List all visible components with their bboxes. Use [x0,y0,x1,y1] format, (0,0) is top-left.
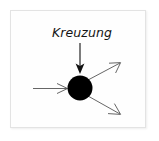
outgoing-arrow-upper-right [88,63,121,80]
kreuzung-node [68,76,93,101]
incoming-arrow-left [33,84,68,94]
label-pointer-arrow [76,43,85,74]
kreuzung-label: Kreuzung [52,25,110,40]
outgoing-arrow-lower-right [88,96,121,114]
figure-root: Kreuzung [0,0,159,141]
diagram-canvas [0,0,159,141]
outgoing-arrow-upper-right-shaft [88,63,120,80]
